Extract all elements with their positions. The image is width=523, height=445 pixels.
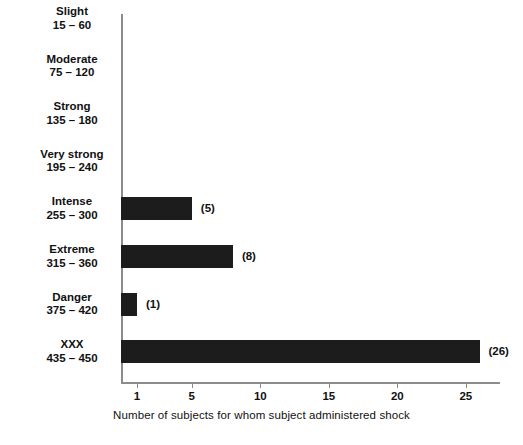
x-tick-label: 15	[309, 390, 349, 402]
bar-value-label: (1)	[146, 293, 160, 316]
x-tick-label: 5	[172, 390, 212, 402]
category-label-name: Strong	[26, 100, 118, 114]
bar-chart-figure: Shock-generating voltage and description…	[0, 0, 523, 445]
category-label-name: Very strong	[26, 148, 118, 162]
category-label: Very strong195 – 240	[26, 148, 118, 175]
category-label-column: Slight15 – 60Moderate75 – 120Strong135 –…	[26, 0, 118, 445]
x-tick-label: 10	[240, 390, 280, 402]
bar-value-label: (5)	[201, 197, 215, 220]
category-label: XXX435 – 450	[26, 338, 118, 365]
x-tick-mark	[466, 383, 467, 388]
plot-area: (5)(8)(1)(26)1510152025	[121, 0, 523, 445]
category-label: Moderate75 – 120	[26, 53, 118, 80]
category-label-range: 135 – 180	[26, 114, 118, 128]
category-label: Strong135 – 180	[26, 100, 118, 127]
category-label-name: XXX	[26, 338, 118, 352]
bar-value-label: (8)	[242, 245, 256, 268]
category-label-name: Danger	[26, 291, 118, 305]
category-label-range: 195 – 240	[26, 161, 118, 175]
category-label-range: 15 – 60	[26, 19, 118, 33]
category-label-range: 375 – 420	[26, 304, 118, 318]
x-axis-line	[121, 382, 500, 384]
bar	[121, 197, 192, 220]
category-label-name: Slight	[26, 5, 118, 19]
x-tick-mark	[329, 383, 330, 388]
y-axis-title: Shock-generating voltage and description	[0, 0, 26, 445]
bar-value-label: (26)	[489, 340, 509, 363]
category-label-range: 75 – 120	[26, 66, 118, 80]
x-axis-title: Number of subjects for whom subject admi…	[0, 409, 523, 421]
category-label-range: 255 – 300	[26, 209, 118, 223]
x-tick-label: 25	[446, 390, 486, 402]
bar	[121, 245, 233, 268]
x-tick-mark	[260, 383, 261, 388]
bar	[121, 293, 137, 316]
category-label: Intense255 – 300	[26, 195, 118, 222]
category-label-name: Moderate	[26, 53, 118, 67]
x-tick-mark	[137, 383, 138, 388]
category-label-name: Extreme	[26, 243, 118, 257]
category-label: Extreme315 – 360	[26, 243, 118, 270]
category-label-range: 435 – 450	[26, 352, 118, 366]
bar	[121, 340, 480, 363]
category-label: Slight15 – 60	[26, 5, 118, 32]
x-tick-mark	[192, 383, 193, 388]
x-axis-title-text: Number of subjects for whom subject admi…	[113, 409, 410, 421]
x-tick-mark	[397, 383, 398, 388]
category-label: Danger375 – 420	[26, 291, 118, 318]
category-label-range: 315 – 360	[26, 257, 118, 271]
category-label-name: Intense	[26, 195, 118, 209]
x-tick-label: 20	[377, 390, 417, 402]
x-tick-label: 1	[117, 390, 157, 402]
